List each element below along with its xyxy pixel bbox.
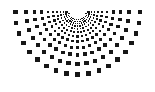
data-point	[72, 24, 73, 25]
data-point	[77, 21, 78, 22]
data-point	[101, 11, 103, 13]
data-point	[92, 30, 94, 32]
data-point	[116, 25, 120, 29]
data-point	[86, 22, 87, 23]
data-point	[102, 25, 105, 28]
data-point	[90, 16, 91, 17]
data-point	[61, 17, 63, 19]
data-point	[70, 30, 72, 32]
data-point	[86, 15, 87, 16]
data-point	[90, 27, 92, 29]
data-point	[65, 13, 66, 14]
data-point	[44, 64, 49, 69]
data-point	[73, 31, 75, 33]
data-point	[79, 25, 80, 26]
data-point	[115, 57, 120, 62]
data-point	[17, 31, 22, 36]
data-point	[70, 23, 71, 24]
data-point	[71, 17, 72, 18]
data-point	[106, 11, 109, 14]
data-point	[129, 41, 134, 46]
data-point	[97, 68, 102, 73]
data-point	[41, 17, 44, 20]
data-point	[57, 15, 59, 17]
data-point	[85, 13, 86, 14]
data-point	[69, 13, 70, 14]
data-point	[96, 18, 98, 20]
data-point	[67, 11, 68, 12]
data-point	[42, 50, 46, 54]
data-point	[81, 35, 83, 37]
data-point	[80, 21, 81, 22]
data-point	[66, 20, 67, 21]
data-point	[74, 28, 76, 30]
data-point	[88, 20, 89, 21]
data-point	[72, 18, 73, 19]
data-point	[84, 20, 85, 21]
data-point	[109, 50, 113, 54]
data-point	[98, 23, 100, 25]
data-point	[75, 21, 76, 22]
data-point	[84, 23, 85, 24]
data-point	[55, 23, 57, 25]
data-point	[77, 25, 78, 26]
data-point	[88, 15, 89, 16]
data-point	[95, 33, 98, 36]
data-point	[35, 57, 40, 62]
data-point	[86, 13, 87, 14]
data-point	[87, 17, 88, 18]
data-point	[90, 22, 92, 24]
data-point	[40, 10, 43, 13]
data-point	[95, 27, 97, 29]
data-point	[24, 10, 28, 14]
data-point	[96, 15, 98, 17]
data-point	[134, 31, 139, 36]
figure-root	[0, 0, 155, 92]
data-point	[126, 19, 130, 23]
data-point	[127, 10, 131, 14]
data-point	[82, 46, 85, 49]
data-point	[68, 22, 69, 23]
data-point	[76, 53, 80, 57]
data-point	[58, 59, 62, 63]
data-point	[101, 55, 105, 59]
data-point	[89, 32, 91, 34]
data-point	[36, 43, 40, 47]
data-point	[49, 33, 52, 36]
data-point	[118, 18, 122, 22]
radial-dot-scatter	[0, 0, 155, 92]
data-point	[35, 25, 39, 29]
data-point	[66, 15, 67, 16]
data-point	[85, 12, 86, 13]
data-point	[109, 23, 112, 26]
data-point	[77, 31, 79, 33]
data-point	[21, 41, 26, 46]
data-point	[91, 36, 94, 39]
data-point	[47, 11, 50, 14]
data-point	[79, 21, 80, 22]
data-point	[69, 16, 70, 17]
data-point	[69, 12, 70, 13]
data-point	[94, 21, 96, 23]
data-point	[78, 19, 79, 20]
data-point	[137, 21, 142, 26]
data-point	[76, 46, 79, 49]
data-point	[61, 36, 64, 39]
data-point	[63, 11, 64, 12]
data-point	[115, 43, 119, 47]
data-point	[58, 41, 61, 44]
data-point	[54, 30, 57, 33]
data-point	[123, 50, 128, 55]
data-point	[103, 33, 106, 36]
data-point	[100, 15, 102, 17]
data-point	[60, 11, 62, 13]
data-point	[105, 16, 108, 19]
data-point	[91, 20, 93, 22]
data-point	[57, 18, 59, 20]
data-point	[47, 16, 50, 19]
data-point	[48, 21, 51, 24]
data-point	[106, 64, 111, 69]
data-point	[61, 30, 63, 32]
data-point	[111, 17, 114, 20]
data-point	[33, 10, 37, 14]
